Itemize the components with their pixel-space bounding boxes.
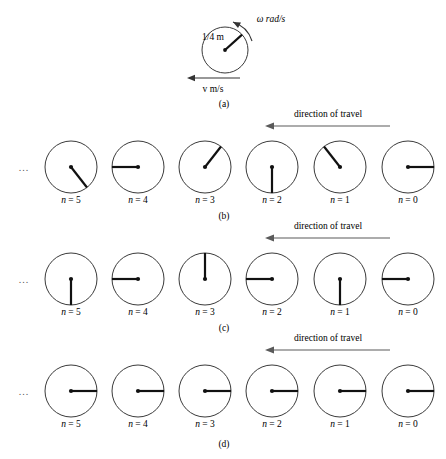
omega-label: ω rad/s <box>257 14 286 24</box>
travel-arrowhead-icon-d <box>265 346 274 353</box>
wheel-hub-dot <box>270 389 274 393</box>
panel-letter-c: (c) <box>219 323 230 334</box>
ellipsis-c: ... <box>19 274 30 285</box>
wheel-index-label: n = 0 <box>398 195 418 205</box>
wheel-hub-dot <box>338 277 342 281</box>
wheel-c-n0: n = 0 <box>382 253 434 317</box>
panel-d: direction of travel ... n = 5n = 4n = 3n… <box>19 333 434 450</box>
wheel-index-label: n = 3 <box>195 195 215 205</box>
wheel-row-d: n = 5n = 4n = 3n = 2n = 1n = 0 <box>45 365 434 429</box>
wheel-hub-dot <box>406 389 410 393</box>
panel-letter-b: (b) <box>218 211 229 222</box>
wheel-row-b: n = 5n = 4n = 3n = 2n = 1n = 0 <box>45 141 434 205</box>
travel-arrowhead-icon-c <box>265 234 274 241</box>
wheel-index-label: n = 1 <box>330 419 350 429</box>
wheel-index-label: n = 4 <box>128 195 148 205</box>
panel-a: ω rad/s 1/4 m v m/s (a) <box>187 14 286 110</box>
wheel-index-label: n = 2 <box>262 195 282 205</box>
wheel-index-label: n = 1 <box>330 195 350 205</box>
wheel-d-n5: n = 5 <box>45 365 97 429</box>
wheel-index-label: n = 3 <box>195 307 215 317</box>
wheel-index-label: n = 5 <box>61 307 81 317</box>
figure-container: ω rad/s 1/4 m v m/s (a) direction of tra… <box>0 0 446 459</box>
wheel-hub-dot <box>203 277 207 281</box>
wheel-d-n2: n = 2 <box>246 365 298 429</box>
wheel-index-label: n = 4 <box>128 419 148 429</box>
wheel-row-c: n = 5n = 4n = 3n = 2n = 1n = 0 <box>45 253 434 317</box>
wheel-index-label: n = 5 <box>61 419 81 429</box>
wheel-index-label: n = 2 <box>262 419 282 429</box>
wheel-d-n4: n = 4 <box>112 365 164 429</box>
velocity-arrowhead-icon <box>187 75 195 81</box>
wheel-hub-dot <box>136 165 140 169</box>
wheel-hub-dot <box>69 389 73 393</box>
panel-letter-d: (d) <box>218 439 229 450</box>
wheel-hub-dot <box>406 277 410 281</box>
wheel-hub-dot <box>270 277 274 281</box>
wheel-index-label: n = 3 <box>195 419 215 429</box>
panel-letter-a: (a) <box>219 99 230 110</box>
wheel-b-n0: n = 0 <box>382 141 434 205</box>
wheel-hub-dot <box>203 165 207 169</box>
panel-a-hub-dot <box>223 48 227 52</box>
wheel-hub-dot <box>338 389 342 393</box>
velocity-label: v m/s <box>203 84 224 94</box>
radius-label: 1/4 m <box>202 32 225 42</box>
wheel-index-label: n = 5 <box>61 195 81 205</box>
wheel-b-n3: n = 3 <box>179 141 231 205</box>
wheel-b-n1: n = 1 <box>314 141 366 205</box>
travel-arrowhead-icon-b <box>265 122 274 129</box>
panel-b: direction of travel ... n = 5n = 4n = 3n… <box>19 109 434 222</box>
wheel-hub-dot <box>203 389 207 393</box>
wheel-index-label: n = 2 <box>262 307 282 317</box>
wheel-b-n4: n = 4 <box>112 141 164 205</box>
wheel-d-n0: n = 0 <box>382 365 434 429</box>
ellipsis-b: ... <box>19 162 30 173</box>
wheel-c-n4: n = 4 <box>112 253 164 317</box>
wheel-index-label: n = 1 <box>330 307 350 317</box>
wheel-index-label: n = 0 <box>398 307 418 317</box>
travel-label-c: direction of travel <box>294 221 362 231</box>
wheel-d-n3: n = 3 <box>179 365 231 429</box>
wheel-c-n3: n = 3 <box>179 253 231 317</box>
wheel-hub-dot <box>338 165 342 169</box>
wheel-d-n1: n = 1 <box>314 365 366 429</box>
wheel-index-label: n = 0 <box>398 419 418 429</box>
wheel-c-n5: n = 5 <box>45 253 97 317</box>
wheel-hub-dot <box>136 277 140 281</box>
wheel-b-n2: n = 2 <box>246 141 298 205</box>
wheel-index-label: n = 4 <box>128 307 148 317</box>
wheel-c-n2: n = 2 <box>246 253 298 317</box>
travel-label-d: direction of travel <box>294 333 362 343</box>
ellipsis-d: ... <box>19 386 30 397</box>
wheel-hub-dot <box>69 165 73 169</box>
wheel-hub-dot <box>406 165 410 169</box>
panel-c: direction of travel ... n = 5n = 4n = 3n… <box>19 221 434 334</box>
wheel-c-n1: n = 1 <box>314 253 366 317</box>
wheel-hub-dot <box>69 277 73 281</box>
wheel-hub-dot <box>270 165 274 169</box>
wheel-b-n5: n = 5 <box>45 141 97 205</box>
travel-label-b: direction of travel <box>294 109 362 119</box>
wheel-hub-dot <box>136 389 140 393</box>
rolling-wheel-figure: ω rad/s 1/4 m v m/s (a) direction of tra… <box>0 0 446 459</box>
